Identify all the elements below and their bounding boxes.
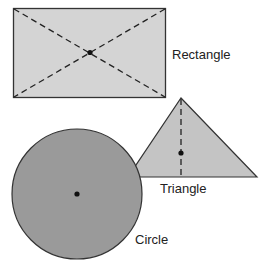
- circle-center-point: [74, 191, 79, 196]
- rectangle-shape: [14, 9, 166, 98]
- rectangle-center-point: [87, 50, 92, 55]
- triangle-center-point: [178, 150, 183, 155]
- circle-shape: [12, 129, 142, 259]
- circle-label: Circle: [135, 232, 168, 247]
- triangle-label: Triangle: [160, 181, 206, 196]
- rectangle-label: Rectangle: [172, 47, 231, 62]
- shapes-diagram: Rectangle Triangle Circle: [0, 0, 264, 270]
- triangle-shape: [128, 98, 257, 177]
